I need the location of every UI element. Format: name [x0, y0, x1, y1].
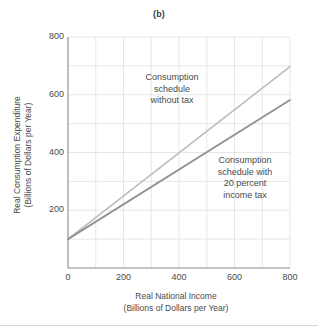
figure-panel-b: (b) [0, 0, 318, 331]
x-tick-0: 0 [53, 272, 83, 282]
annotation-no-tax-line2: schedule [124, 84, 220, 96]
annotation-with-tax-line1: Consumption [196, 155, 294, 167]
x-tick-800: 800 [275, 272, 305, 282]
annotation-with-tax-line3: 20 percent [196, 178, 294, 190]
x-tick-600: 600 [220, 272, 250, 282]
annotation-no-tax: Consumption schedule without tax [124, 72, 220, 107]
annotation-no-tax-line3: without tax [124, 95, 220, 107]
annotation-no-tax-line1: Consumption [124, 72, 220, 84]
y-axis-title: Real Consumption Expenditure (Billions o… [12, 96, 34, 214]
y-axis-title-line2: (Billions of Dollars per Year) [23, 96, 34, 214]
y-tick-200: 200 [38, 204, 64, 214]
annotation-with-tax-line4: income tax [196, 190, 294, 202]
annotation-with-tax: Consumption schedule with 20 percent inc… [196, 155, 294, 201]
x-axis-title: Real National Income (Billions of Dollar… [52, 291, 300, 314]
y-tick-800: 800 [38, 31, 64, 41]
x-tick-400: 400 [164, 272, 194, 282]
y-axis-title-line1: Real Consumption Expenditure [12, 96, 22, 214]
page-bottom-rule [0, 325, 318, 326]
y-axis-title-wrap: Real Consumption Expenditure (Billions o… [8, 40, 38, 270]
x-axis-title-line1: Real National Income [135, 291, 216, 301]
y-tick-400: 400 [38, 147, 64, 157]
annotation-with-tax-line2: schedule with [196, 167, 294, 179]
x-tick-200: 200 [109, 272, 139, 282]
x-axis-title-line2: (Billions of Dollars per Year) [52, 303, 300, 315]
y-tick-600: 600 [38, 89, 64, 99]
